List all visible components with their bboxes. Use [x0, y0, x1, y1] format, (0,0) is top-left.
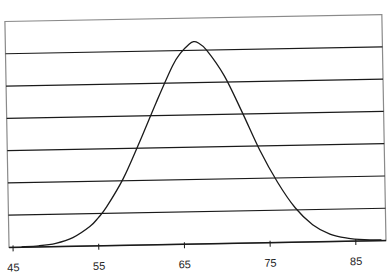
- gridline: [8, 176, 385, 183]
- data-line: [18, 38, 382, 247]
- x-axis: [9, 241, 386, 248]
- gridline: [7, 111, 384, 118]
- x-tick-label: 85: [350, 255, 362, 267]
- x-tick-label: 75: [264, 257, 276, 269]
- x-tick-label: 55: [93, 260, 105, 272]
- x-axis-tick-labels: 4555657585: [7, 255, 362, 273]
- gridline: [8, 208, 385, 215]
- gridline: [5, 47, 382, 54]
- x-tick-label: 45: [7, 261, 19, 273]
- gridlines: [5, 47, 385, 215]
- chart: 4555657585: [0, 0, 391, 273]
- gridline: [7, 144, 384, 151]
- plot-area-frame: [5, 15, 386, 248]
- x-tick-label: 65: [179, 258, 191, 270]
- gridline: [6, 79, 383, 86]
